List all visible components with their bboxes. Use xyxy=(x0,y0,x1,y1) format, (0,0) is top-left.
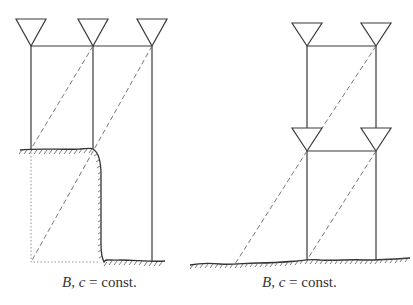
right-panel xyxy=(190,23,410,269)
caption-text: = const. xyxy=(85,274,136,290)
caption-text: = const. xyxy=(285,274,336,290)
caption-variables: B, c xyxy=(62,274,85,290)
ray-path xyxy=(307,151,376,260)
antenna-icon xyxy=(78,19,108,46)
antenna-icon xyxy=(292,23,322,46)
caption-variables: B, c xyxy=(262,274,285,290)
antenna-icon xyxy=(292,128,322,151)
diagram-canvas xyxy=(0,0,413,305)
terrain-cliff xyxy=(20,148,165,262)
antenna-icon xyxy=(361,23,391,46)
virtual-outline xyxy=(31,149,100,262)
left-caption: B, c = const. xyxy=(62,274,137,291)
right-caption: B, c = const. xyxy=(262,274,337,291)
antenna-icon xyxy=(16,19,46,46)
left-panel xyxy=(16,19,167,266)
antenna-icon xyxy=(361,128,391,151)
antenna-icon xyxy=(137,19,167,46)
ray-path xyxy=(31,46,93,149)
ray-path xyxy=(235,151,307,264)
ray-path xyxy=(322,46,376,128)
